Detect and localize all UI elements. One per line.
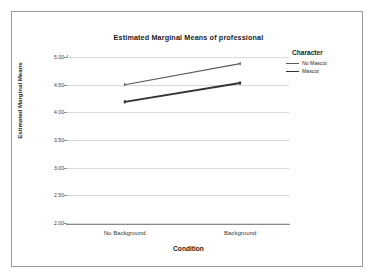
y-tick-label: 5.00 bbox=[42, 54, 64, 60]
y-axis-ticks: 5.004.504.003.503.002.502.00 bbox=[40, 57, 64, 223]
legend-item: No Mascot bbox=[286, 60, 372, 66]
series-line bbox=[125, 64, 240, 85]
x-axis-line bbox=[66, 224, 290, 225]
legend-item-label: Mascot bbox=[302, 68, 319, 74]
y-tick-label: 4.00 bbox=[42, 109, 64, 115]
legend: Character No MascotMascot bbox=[286, 49, 372, 76]
gridline bbox=[67, 223, 289, 224]
legend-item-label: No Mascot bbox=[302, 60, 327, 66]
y-tick-label: 2.00 bbox=[42, 220, 64, 226]
series-line bbox=[125, 83, 240, 102]
chart-figure: Estimated Marginal Means of professional… bbox=[0, 0, 377, 280]
x-tick-label: No Background bbox=[104, 229, 146, 236]
series-lines bbox=[67, 57, 289, 223]
y-tick-label: 3.00 bbox=[42, 165, 64, 171]
x-tick-label: Background bbox=[224, 229, 257, 236]
y-tick-label: 3.50 bbox=[42, 137, 64, 143]
legend-item: Mascot bbox=[286, 68, 372, 74]
x-axis-title: Condition bbox=[0, 245, 377, 252]
chart-title: Estimated Marginal Means of professional bbox=[0, 33, 377, 42]
legend-title: Character bbox=[292, 49, 372, 56]
y-axis-title: Estimated Marginal Means bbox=[16, 36, 23, 166]
legend-entries: No MascotMascot bbox=[286, 60, 372, 74]
y-tick-label: 4.50 bbox=[42, 82, 64, 88]
plot-area bbox=[67, 57, 289, 223]
legend-line-swatch bbox=[286, 71, 299, 72]
y-tick-label: 2.50 bbox=[42, 192, 64, 198]
legend-line-swatch bbox=[286, 63, 299, 64]
